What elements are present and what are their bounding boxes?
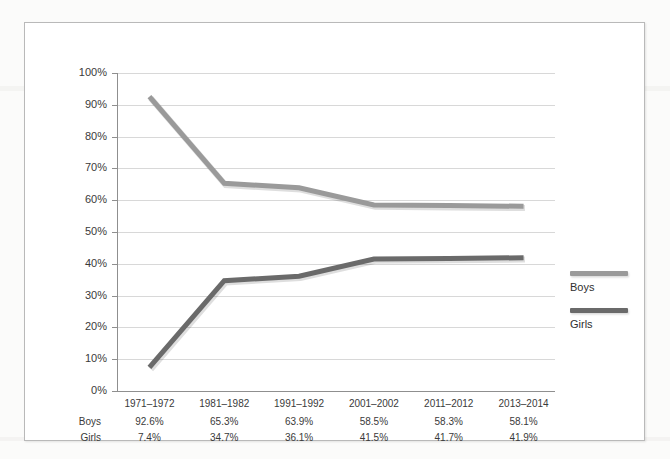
table-row-label: Girls <box>31 430 101 446</box>
y-axis-tick-mark <box>112 327 118 328</box>
y-axis-tick-mark <box>112 232 118 233</box>
y-axis-tick-mark <box>112 391 118 392</box>
legend-swatch-boys <box>570 271 628 276</box>
y-axis-tick-mark <box>112 137 118 138</box>
legend: BoysGirls <box>570 271 634 345</box>
table-cell: 41.9% <box>479 430 569 446</box>
y-axis-tick-mark <box>112 73 118 74</box>
table-row-label: Boys <box>31 414 101 430</box>
legend-entry-boys[interactable]: Boys <box>570 271 634 294</box>
legend-swatch-girls <box>570 308 628 313</box>
figure-card: 0%10%20%30%40%50%60%70%80%90%100% 1971–1… <box>24 22 645 441</box>
y-axis-tick-mark <box>112 264 118 265</box>
x-axis-labels: 1971–19721981–19821991–19922001–20022011… <box>25 397 646 413</box>
data-table: Boys92.6%65.3%63.9%58.5%58.3%58.1%Girls7… <box>25 414 646 446</box>
series-line-shadow-boys <box>151 98 525 208</box>
y-axis-tick-mark <box>112 296 118 297</box>
x-axis-tick-label: 2013–2014 <box>479 397 569 410</box>
table-row: Boys92.6%65.3%63.9%58.5%58.3%58.1% <box>25 414 646 430</box>
series-lines <box>25 23 646 442</box>
series-line-girls <box>149 258 523 368</box>
legend-entry-girls[interactable]: Girls <box>570 308 634 331</box>
series-line-shadow-girls <box>151 260 525 370</box>
series-line-boys <box>149 97 523 207</box>
table-cell: 58.1% <box>479 414 569 430</box>
y-axis-tick-mark <box>112 168 118 169</box>
legend-label: Boys <box>570 280 634 294</box>
legend-label: Girls <box>570 317 634 331</box>
y-axis-tick-mark <box>112 359 118 360</box>
y-axis-tick-mark <box>112 200 118 201</box>
table-row: Girls7.4%34.7%36.1%41.5%41.7%41.9% <box>25 430 646 446</box>
y-axis-tick-mark <box>112 105 118 106</box>
